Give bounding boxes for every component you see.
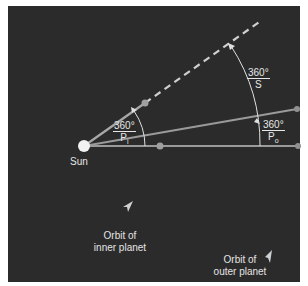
- synodic-angle-label: 360° S: [247, 67, 270, 90]
- dashed-extension-line: [145, 20, 262, 103]
- sun-label: Sun: [70, 156, 88, 168]
- inner-arc-arrowhead-icon: [131, 107, 137, 113]
- inner-orbit-label: Orbit of inner planet: [80, 230, 160, 254]
- outer-orbit-label: Orbit of outer planet: [200, 254, 280, 278]
- inner-planet-start-icon: [157, 143, 164, 150]
- inner-angle-label: 360° Pi: [113, 120, 136, 147]
- inner-planet-icon: [142, 100, 149, 107]
- outer-planet-start-icon: [295, 143, 301, 149]
- inner-orbit-direction-arrow-icon: [123, 201, 133, 212]
- sun-icon: [78, 140, 90, 152]
- outer-planet-icon: [294, 106, 300, 112]
- synodic-arc-arrowhead-icon: [228, 43, 235, 50]
- outer-angle-label: 360° Po: [262, 119, 285, 146]
- synodic-angle-arc: [231, 46, 260, 146]
